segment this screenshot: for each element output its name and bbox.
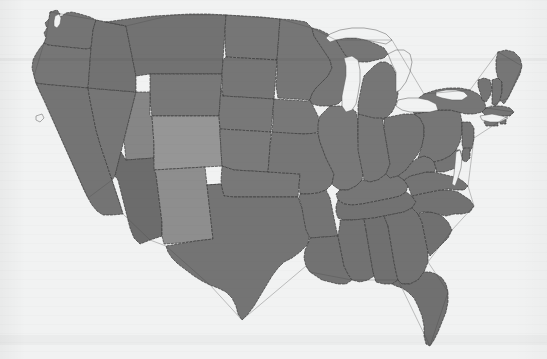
us-map-svg	[0, 0, 547, 359]
state-wyoming[interactable]	[150, 74, 222, 116]
us-map-figure	[0, 0, 547, 359]
state-north-dakota[interactable]	[225, 15, 280, 60]
state-kansas[interactable]	[220, 129, 271, 172]
state-new-mexico[interactable]	[154, 167, 213, 244]
state-colorado[interactable]	[152, 116, 222, 170]
state-oregon[interactable]	[32, 43, 91, 88]
state-south-dakota[interactable]	[222, 57, 277, 99]
